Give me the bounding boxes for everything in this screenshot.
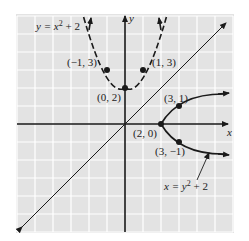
graph-figure: x y (−1, 3) (1, 3) (0, 2) (3, 1) (2, 0) … (0, 0, 249, 241)
label-point-1-3: (1, 3) (152, 56, 176, 69)
label-curve-upper: y = x2 + 2 (35, 19, 80, 32)
y-axis-label: y (128, 12, 134, 24)
point-2-0 (158, 121, 164, 127)
label-point-neg1-3: (−1, 3) (67, 56, 97, 69)
label-point-3-1: (3, 1) (164, 92, 188, 105)
label-point-0-2: (0, 2) (97, 91, 121, 104)
point-0-2 (122, 85, 128, 91)
label-point-2-0: (2, 0) (133, 127, 157, 140)
point-1-3 (140, 67, 146, 73)
point-neg1-3 (104, 67, 110, 73)
x-axis-label: x (226, 126, 232, 138)
label-curve-right: x = y2 + 2 (163, 179, 208, 192)
label-point-3-neg1: (3, −1) (155, 145, 185, 158)
